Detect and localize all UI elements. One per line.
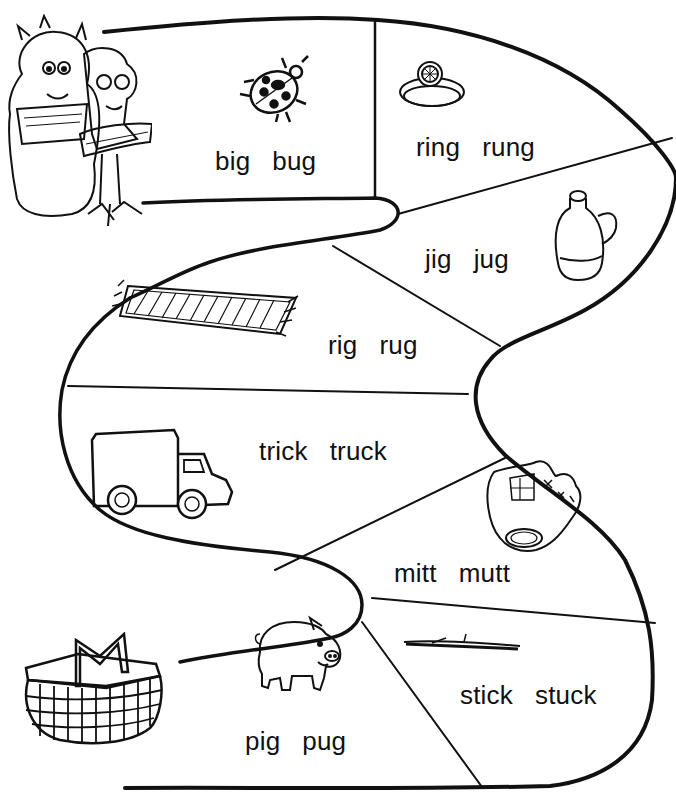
worksheet: big bug ring rung jig jug rig rug trick … (0, 0, 676, 801)
truck-icon (88, 426, 236, 520)
word-option[interactable]: stick (460, 680, 513, 711)
word-option[interactable]: mitt (394, 558, 437, 589)
baseball-mitt-icon (480, 458, 586, 554)
ladybug-icon (234, 52, 318, 126)
monster-and-child-icon (2, 14, 152, 234)
word-option[interactable]: pug (302, 726, 346, 757)
word-option[interactable]: stuck (535, 680, 597, 711)
segment-7-words: stick stuck (460, 680, 597, 711)
word-option[interactable]: mutt (459, 558, 510, 589)
stick-icon (402, 632, 524, 654)
segment-6-words: mitt mutt (394, 558, 510, 589)
word-option[interactable]: trick (259, 436, 308, 467)
jug-icon (554, 188, 626, 284)
segment-8-words: pig pug (245, 726, 346, 757)
word-option[interactable]: ring (416, 132, 460, 163)
word-option[interactable]: rug (380, 330, 418, 361)
segment-5-words: trick truck (259, 436, 387, 467)
segment-2-words: ring rung (416, 132, 535, 163)
segment-1-words: big bug (215, 146, 316, 177)
pig-icon (252, 614, 348, 694)
word-option[interactable]: jug (474, 244, 509, 275)
segment-3-words: jig jug (425, 244, 509, 275)
word-option[interactable]: truck (330, 436, 387, 467)
rug-icon (112, 262, 304, 342)
word-option[interactable]: bug (272, 146, 316, 177)
picnic-basket-icon (20, 632, 164, 746)
ring-icon (398, 58, 470, 112)
word-option[interactable]: rig (328, 330, 358, 361)
word-option[interactable]: rung (482, 132, 535, 163)
word-option[interactable]: jig (425, 244, 452, 275)
segment-4-words: rig rug (328, 330, 418, 361)
word-option[interactable]: big (215, 146, 250, 177)
word-option[interactable]: pig (245, 726, 280, 757)
